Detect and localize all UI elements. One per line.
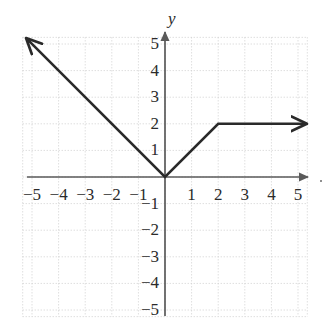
x-tick-label: 5 — [285, 186, 311, 203]
y-tick-label: 4 — [129, 62, 159, 79]
x-tick-label: 4 — [258, 186, 284, 203]
x-tick-label: −3 — [72, 186, 98, 203]
y-tick-label: 3 — [129, 88, 159, 105]
coordinate-plane-svg — [0, 0, 332, 334]
x-tick-label: −2 — [99, 186, 125, 203]
x-tick-label: 3 — [232, 186, 258, 203]
x-tick-label: 1 — [179, 186, 205, 203]
y-tick-label: −4 — [129, 274, 159, 291]
y-tick-label: 2 — [129, 115, 159, 132]
y-tick-label: 5 — [129, 35, 159, 52]
x-tick-label: −5 — [19, 186, 45, 203]
x-axis-end-dot — [320, 180, 322, 182]
y-tick-label: −1 — [129, 195, 159, 212]
x-tick-label: 2 — [205, 186, 231, 203]
y-tick-label: −2 — [129, 221, 159, 238]
function-curve — [27, 39, 306, 177]
x-tick-label: −4 — [46, 186, 72, 203]
piecewise-polyline — [27, 39, 306, 177]
y-tick-label: −5 — [129, 301, 159, 318]
y-axis-label: y — [168, 10, 176, 27]
chart-canvas: y −5−4−3−2−11234554321−1−2−3−4−5 — [0, 0, 332, 334]
y-tick-label: −3 — [129, 248, 159, 265]
y-tick-label: 1 — [129, 141, 159, 158]
